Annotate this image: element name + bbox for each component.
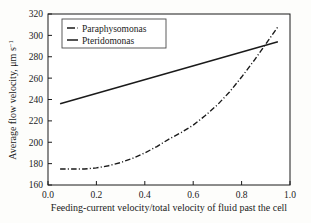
x-tick-label: 0.4: [139, 190, 151, 200]
y-tick-label: 320: [29, 9, 44, 19]
x-tick-label: 0.0: [42, 190, 54, 200]
y-tick-label: 220: [29, 116, 44, 126]
x-tick-label: 1.0: [284, 190, 296, 200]
legend-label-paraphysomonas: Paraphysomonas: [82, 24, 147, 34]
y-tick-label: 160: [29, 180, 44, 190]
y-axis-tick-labels: 160180200220240260280300320: [29, 9, 44, 190]
y-tick-label: 240: [29, 95, 44, 105]
legend: Paraphysomonas Pteridomonas: [62, 19, 166, 48]
y-tick-label: 260: [29, 74, 44, 84]
chart-plot-area: 0.00.20.40.60.81.0 160180200220240260280…: [0, 0, 311, 223]
y-tick-label: 300: [29, 31, 44, 41]
chart-figure: 0.00.20.40.60.81.0 160180200220240260280…: [0, 0, 311, 223]
x-tick-label: 0.6: [187, 190, 199, 200]
y-axis-title: Average flow velocity, μm s−1: [7, 40, 18, 160]
x-tick-label: 0.2: [90, 190, 102, 200]
y-tick-label: 180: [29, 159, 44, 169]
y-tick-label: 280: [29, 52, 44, 62]
y-axis-title-main: Average flow velocity, μm s: [7, 47, 18, 160]
y-axis-title-superscript: −1: [7, 40, 14, 47]
legend-label-pteridomonas: Pteridomonas: [82, 36, 135, 46]
x-axis-tick-labels: 0.00.20.40.60.81.0: [42, 190, 296, 200]
y-tick-label: 200: [29, 138, 44, 148]
x-tick-label: 0.8: [236, 190, 248, 200]
x-axis-title: Feeding-current velocity/total velocity …: [51, 202, 288, 213]
